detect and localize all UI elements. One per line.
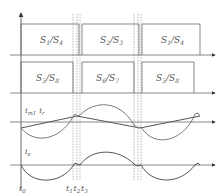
pulse-label-s1s4-b: S1/S4	[161, 35, 184, 46]
pulse-label-s6s7: S6/S7	[96, 73, 119, 84]
time-label-t0: t0	[19, 184, 26, 194]
secondary-current-wave	[21, 152, 200, 180]
current-pair-label: im1ir	[25, 106, 45, 116]
secondary-current-label: is	[25, 147, 31, 157]
pulse-label-s5s8-b: S5/S8	[156, 73, 179, 84]
time-label-t1: t1	[66, 184, 73, 194]
dead-time-lines-2	[134, 14, 141, 180]
time-label-t2: t2	[74, 184, 81, 194]
pulse-label-s5s8-a: S5/S8	[36, 73, 59, 84]
timing-diagram: S1/S4 S2/S3 S1/S4 S5/S8 S6/S7 S5/S8 im1i…	[0, 0, 223, 196]
time-label-t3: t3	[81, 184, 88, 194]
pulse-label-s2s3: S2/S3	[100, 35, 123, 46]
secondary-current-row	[10, 152, 215, 180]
pulse-label-s1s4-a: S1/S4	[40, 35, 63, 46]
